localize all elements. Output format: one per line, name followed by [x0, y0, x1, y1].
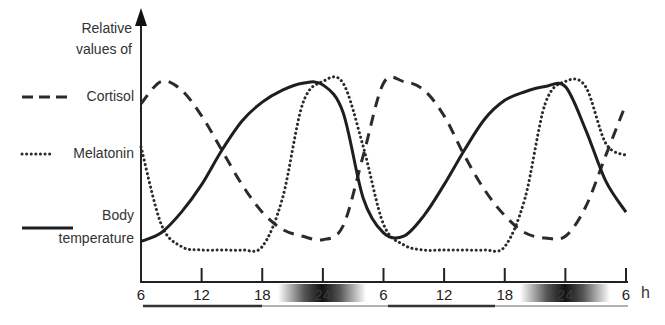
- legend-melatonin-label: Melatonin: [40, 145, 134, 161]
- y-axis-arrow-icon: [135, 8, 147, 26]
- y-axis-label-line1: Relative: [60, 20, 132, 36]
- x-tick-label: 6: [622, 286, 630, 303]
- x-tick-label: 6: [137, 286, 145, 303]
- body-temperature-curve: [141, 82, 626, 242]
- x-tick-label: 12: [193, 286, 210, 303]
- legend-body-label-line1: Body: [60, 207, 134, 223]
- x-tick-label: 18: [496, 286, 513, 303]
- y-axis-label-line2: values of: [60, 41, 132, 57]
- x-tick-label: 24: [315, 286, 332, 303]
- legend-cortisol-label: Cortisol: [60, 88, 134, 104]
- x-axis-unit-label: h: [641, 284, 650, 302]
- x-tick-label: 18: [254, 286, 271, 303]
- legend-body-label-line2: temperature: [30, 230, 134, 246]
- x-tick-label: 12: [436, 286, 453, 303]
- x-tick-label: 6: [379, 286, 387, 303]
- x-axis-ticks: [202, 268, 626, 282]
- cortisol-curve: [141, 77, 626, 240]
- x-tick-label: 24: [557, 286, 574, 303]
